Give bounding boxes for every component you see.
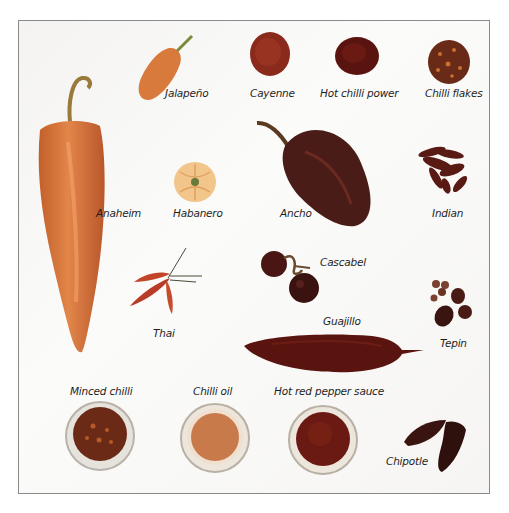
chilli-oil-bowl-image [180, 402, 250, 474]
label-ancho: Ancho [280, 207, 312, 219]
label-thai: Thai [153, 327, 175, 339]
label-indian: Indian [432, 207, 463, 219]
chilli-flakes-image [426, 38, 472, 86]
tepin-image [428, 278, 476, 332]
guajillo-image [242, 330, 426, 374]
label-jalapeno: Jalapeño [165, 87, 209, 99]
thai-chillies-image [126, 248, 206, 318]
ancho-image [255, 118, 380, 230]
label-cascabel: Cascabel [320, 256, 366, 268]
label-chilli-oil: Chilli oil [193, 385, 232, 397]
label-chilli-flakes: Chilli flakes [425, 87, 482, 99]
label-guajillo: Guajillo [323, 315, 361, 327]
hot-red-pepper-sauce-bowl-image [288, 404, 358, 476]
chipotle-image [402, 418, 468, 476]
cascabel-image [260, 244, 320, 304]
minced-chilli-bowl-image [65, 400, 135, 472]
indian-chillies-image [412, 140, 474, 198]
label-minced-chilli: Minced chilli [70, 385, 132, 397]
label-hot-chilli-power: Hot chilli power [320, 87, 398, 99]
hot-chilli-power-image [334, 36, 380, 76]
label-hot-red-pepper-sauce: Hot red pepper sauce [274, 385, 384, 397]
label-chipotle: Chipotle [386, 455, 428, 467]
cayenne-powder-image [248, 32, 292, 80]
label-habanero: Habanero [173, 207, 223, 219]
label-anaheim: Anaheim [96, 207, 141, 219]
label-cayenne: Cayenne [250, 87, 295, 99]
habanero-image [172, 160, 218, 204]
label-tepin: Tepin [440, 337, 467, 349]
